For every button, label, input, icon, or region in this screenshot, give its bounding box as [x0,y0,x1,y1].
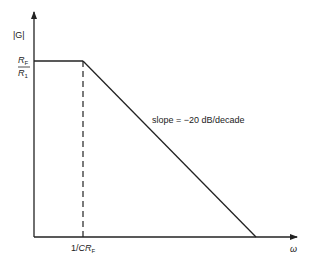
gain-denominator-sub: 1 [25,73,28,79]
slope-label: slope = −20 dB/decade [152,115,245,125]
corner-prefix: 1/ [71,243,79,253]
corner-sub: F [92,248,96,254]
rolloff-line [83,61,256,237]
gain-denominator: R1 [18,68,28,79]
bode-plot [0,0,313,265]
corner-frequency-label: 1/CRF [71,243,95,254]
x-axis-label: ω [290,244,297,254]
gain-numerator: RF [18,55,28,66]
y-axis-label: |G| [13,30,25,40]
gain-numerator-sub: F [25,60,29,66]
corner-var: CR [79,243,92,253]
